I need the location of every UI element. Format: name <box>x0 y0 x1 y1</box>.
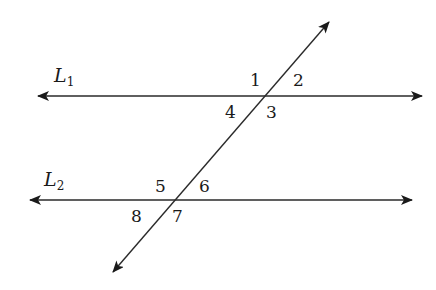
angle-label-2: 2 <box>293 72 304 89</box>
angle-label-1: 1 <box>250 72 261 89</box>
diagram-lines <box>0 0 436 290</box>
angle-label-3: 3 <box>266 104 277 121</box>
angle-label-4: 4 <box>225 104 236 121</box>
transversal-line <box>113 22 329 272</box>
angle-label-5: 5 <box>155 178 166 195</box>
line-label-l1: L1 <box>54 66 74 88</box>
angle-label-7: 7 <box>172 208 183 225</box>
line-label-l2: L2 <box>44 170 64 192</box>
parallel-lines-transversal-diagram: L1 L2 1 2 3 4 5 6 7 8 <box>0 0 436 290</box>
angle-label-8: 8 <box>131 208 142 225</box>
angle-label-6: 6 <box>199 178 210 195</box>
